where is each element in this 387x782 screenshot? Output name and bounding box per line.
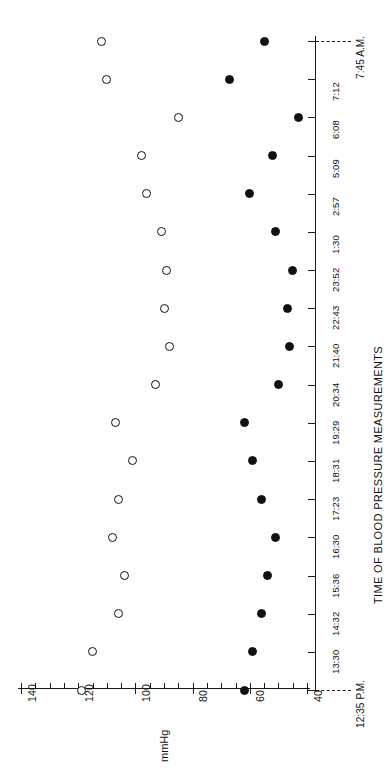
time-tick-label: 6:08: [330, 121, 341, 140]
data-point-systolic: [97, 37, 106, 46]
time-tick: [308, 461, 316, 462]
mmhg-minor-tick: [50, 683, 51, 689]
time-tick: [308, 194, 316, 195]
data-point-systolic: [165, 342, 174, 351]
time-tick: [308, 156, 316, 157]
time-tick: [308, 385, 316, 386]
data-point-diastolic: [294, 113, 303, 122]
mmhg-minor-tick: [178, 683, 179, 689]
mmhg-major-tick: [135, 683, 136, 694]
data-point-diastolic: [285, 342, 294, 351]
plot-area: 140120100806040 12:35 P.M.13:3014:3215:3…: [0, 0, 387, 782]
mmhg-minor-tick: [264, 683, 265, 689]
data-point-systolic: [77, 686, 86, 695]
mmhg-axis-label: mmHg: [158, 730, 170, 762]
time-tick: [308, 232, 316, 233]
time-tick-label: 21:40: [330, 344, 341, 368]
mmhg-major-tick: [21, 683, 22, 694]
data-point-systolic: [174, 113, 183, 122]
data-point-diastolic: [274, 380, 283, 389]
time-tick: [308, 346, 316, 347]
time-tick: [308, 270, 316, 271]
time-tick-label: 5:09: [330, 159, 341, 178]
mmhg-minor-tick: [278, 683, 279, 689]
time-tick-label: 14:32: [330, 611, 341, 635]
data-point-systolic: [102, 75, 111, 84]
data-point-systolic: [128, 456, 137, 465]
data-point-systolic: [111, 418, 120, 427]
time-tick: [308, 499, 316, 500]
time-tick-label: 16:30: [330, 535, 341, 559]
time-tick-label: 20:34: [330, 382, 341, 406]
data-point-systolic: [160, 304, 169, 313]
time-tick: [308, 690, 316, 691]
data-point-systolic: [157, 227, 166, 236]
data-point-diastolic: [268, 151, 277, 160]
data-point-diastolic: [257, 609, 266, 618]
mmhg-minor-tick: [164, 683, 165, 689]
data-point-diastolic: [260, 37, 269, 46]
data-point-systolic: [151, 380, 160, 389]
mmhg-minor-tick: [293, 683, 294, 689]
time-tick: [308, 308, 316, 309]
time-endpoint-leader: [316, 690, 351, 691]
data-point-diastolic: [271, 227, 280, 236]
time-endpoint-leader: [316, 41, 351, 42]
time-axis-line: [315, 36, 316, 690]
time-tick: [308, 41, 316, 42]
time-tick-label: 19:29: [330, 421, 341, 445]
time-tick: [308, 79, 316, 80]
data-point-diastolic: [245, 189, 254, 198]
data-point-diastolic: [257, 495, 266, 504]
mmhg-major-tick: [307, 683, 308, 694]
data-point-systolic: [114, 495, 123, 504]
time-tick: [308, 423, 316, 424]
data-point-diastolic: [240, 686, 249, 695]
time-tick-label: 2:57: [330, 197, 341, 216]
data-point-diastolic: [263, 571, 272, 580]
time-tick-label: 15:36: [330, 573, 341, 597]
mmhg-tick-label: 40: [312, 690, 324, 702]
mmhg-minor-tick: [64, 683, 65, 689]
time-tick: [308, 117, 316, 118]
mmhg-tick-label: 80: [197, 690, 209, 702]
data-point-systolic: [108, 533, 117, 542]
data-point-diastolic: [288, 266, 297, 275]
time-tick: [308, 614, 316, 615]
time-tick-label: 17:23: [330, 497, 341, 521]
mmhg-tick-label: 140: [26, 684, 38, 702]
mmhg-tick-label: 100: [140, 684, 152, 702]
data-point-diastolic: [240, 418, 249, 427]
time-tick: [308, 652, 316, 653]
mmhg-minor-tick: [236, 683, 237, 689]
data-point-diastolic: [283, 304, 292, 313]
time-tick-label: 12:35 P.M.: [355, 680, 366, 728]
data-point-systolic: [142, 189, 151, 198]
data-point-systolic: [162, 266, 171, 275]
blood-pressure-chart: 140120100806040 12:35 P.M.13:3014:3215:3…: [0, 0, 387, 782]
time-tick-label: 1:30: [330, 235, 341, 254]
data-point-diastolic: [225, 75, 234, 84]
data-point-systolic: [88, 647, 97, 656]
chart-title: TIME OF BLOOD PRESSURE MEASUREMENTS: [372, 346, 384, 604]
data-point-systolic: [137, 151, 146, 160]
data-point-diastolic: [248, 456, 257, 465]
time-tick: [308, 537, 316, 538]
time-tick-label: 23:52: [330, 268, 341, 292]
data-point-systolic: [114, 609, 123, 618]
time-tick-label: 13:30: [330, 650, 341, 674]
mmhg-major-tick: [193, 683, 194, 694]
time-tick-label: 7:12: [330, 82, 341, 101]
time-tick-label: 7:45 A.M.: [355, 36, 366, 79]
mmhg-minor-tick: [221, 683, 222, 689]
data-point-diastolic: [271, 533, 280, 542]
time-tick: [308, 576, 316, 577]
data-point-diastolic: [248, 647, 257, 656]
mmhg-minor-tick: [207, 683, 208, 689]
data-point-systolic: [120, 571, 129, 580]
mmhg-minor-tick: [107, 683, 108, 689]
mmhg-minor-tick: [121, 683, 122, 689]
time-tick-label: 18:31: [330, 459, 341, 483]
mmhg-major-tick: [250, 683, 251, 694]
mmhg-tick-label: 60: [254, 690, 266, 702]
